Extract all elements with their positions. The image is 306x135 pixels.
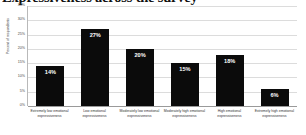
gridline-0 xyxy=(28,106,297,107)
y-axis-title: Percent of respondents xyxy=(6,4,10,68)
x-axis-category-label: High emotional expressiveness xyxy=(207,109,252,118)
x-axis-category-label: Low emotional expressiveness xyxy=(72,109,117,118)
x-axis-category-label: Moderately high emotional expressiveness xyxy=(162,109,207,118)
y-axis-tick-labels: 35%30%25%20%15%10%5%0% xyxy=(12,6,25,106)
bar[interactable]: 20% xyxy=(126,49,154,106)
bar-value-label: 14% xyxy=(36,69,64,75)
bar-value-label: 6% xyxy=(261,92,289,98)
x-axis-category-labels: Extremely low emotional expressivenessLo… xyxy=(27,109,297,118)
bar[interactable]: 27% xyxy=(81,29,109,106)
x-axis-category-label: Moderately low emotional expressiveness xyxy=(117,109,162,118)
y-axis-tick-25: 25% xyxy=(12,33,25,37)
bar-value-label: 15% xyxy=(171,66,199,72)
chart-title: Expressiveness across the survey xyxy=(2,0,302,5)
bar-slot: 15% xyxy=(162,6,207,106)
bar-slot: 27% xyxy=(73,6,118,106)
y-axis-tick-35: 35% xyxy=(12,4,25,8)
bar-slot: 14% xyxy=(28,6,73,106)
plot-area: 14%27%20%15%18%6% xyxy=(27,6,297,106)
bar-slot: 6% xyxy=(252,6,297,106)
y-axis-tick-20: 20% xyxy=(12,47,25,51)
x-axis-category-label: Extremely low emotional expressiveness xyxy=(27,109,72,118)
bar-value-label: 20% xyxy=(126,52,154,58)
y-axis-tick-5: 5% xyxy=(12,90,25,94)
bar-slot: 20% xyxy=(118,6,163,106)
y-axis-tick-10: 10% xyxy=(12,76,25,80)
bar-slot: 18% xyxy=(207,6,252,106)
y-axis-tick-0: 0% xyxy=(12,104,25,108)
bar-value-label: 27% xyxy=(81,32,109,38)
x-axis-category-label: Extremely high emotional expressiveness xyxy=(252,109,297,118)
chart-plot-wrapper: Percent of respondents 35%30%25%20%15%10… xyxy=(0,6,306,135)
bar-value-label: 18% xyxy=(216,58,244,64)
bar[interactable]: 14% xyxy=(36,66,64,106)
bar-series: 14%27%20%15%18%6% xyxy=(28,6,297,106)
bar[interactable]: 15% xyxy=(171,63,199,106)
bar[interactable]: 6% xyxy=(261,89,289,106)
bar[interactable]: 18% xyxy=(216,55,244,106)
y-axis-tick-15: 15% xyxy=(12,61,25,65)
y-axis-tick-30: 30% xyxy=(12,18,25,22)
